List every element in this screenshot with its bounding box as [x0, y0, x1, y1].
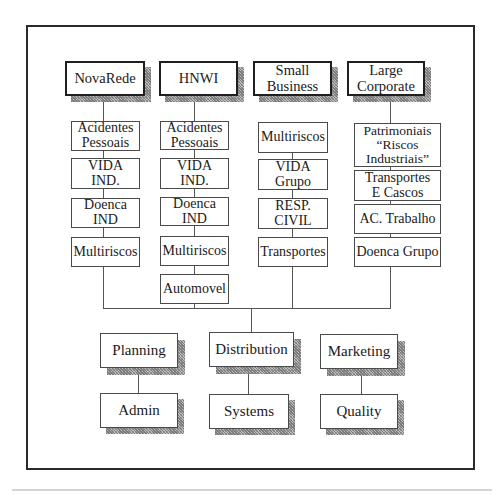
product-box[interactable]: Patrimoniais “Riscos Industriais” [354, 123, 441, 167]
function-box-systems[interactable]: Systems [209, 394, 289, 429]
segment-label: NovaRede [74, 71, 135, 86]
function-label: Distribution [215, 342, 288, 358]
product-label: Automovel [163, 282, 226, 297]
page-divider [12, 489, 492, 491]
product-label: Acidentes Pessoais [167, 121, 223, 150]
segment-label: Large Corporate [357, 63, 415, 93]
function-label: Marketing [328, 344, 390, 360]
function-label: Planning [112, 343, 165, 359]
product-label: Transportes E Cascos [365, 171, 431, 200]
function-label: Quality [337, 404, 382, 420]
product-box[interactable]: RESP. CIVIL [258, 198, 328, 229]
product-box[interactable]: VIDA IND. [71, 158, 140, 189]
function-box-admin[interactable]: Admin [100, 393, 178, 428]
product-label: Transportes [260, 245, 326, 260]
product-label: AC. Trabalho [359, 212, 435, 227]
product-label: VIDA Grupo [275, 160, 311, 189]
function-box-marketing[interactable]: Marketing [320, 334, 398, 369]
product-box[interactable]: Multiriscos [258, 122, 328, 153]
product-box[interactable]: Doenca Grupo [354, 237, 441, 267]
product-label: Multiriscos [163, 244, 227, 259]
product-label: VIDA IND. [177, 159, 212, 188]
product-box[interactable]: VIDA IND. [160, 158, 229, 189]
product-box[interactable]: VIDA Grupo [258, 159, 328, 190]
product-box[interactable]: AC. Trabalho [354, 204, 441, 234]
product-box[interactable]: Multiriscos [160, 236, 229, 266]
function-box-planning[interactable]: Planning [100, 333, 178, 368]
product-box[interactable]: Doenca IND [71, 198, 140, 228]
function-label: Systems [224, 404, 274, 420]
segment-label: HNWI [179, 71, 218, 86]
product-label: Patrimoniais “Riscos Industriais” [363, 124, 431, 167]
product-box[interactable]: Acidentes Pessoais [71, 121, 140, 151]
function-label: Admin [118, 403, 160, 419]
product-label: Multiriscos [74, 245, 138, 260]
product-box[interactable]: Multiriscos [71, 237, 140, 267]
segment-header-novarede[interactable]: NovaRede [65, 61, 145, 96]
segment-header-large-corporate[interactable]: Large Corporate [347, 61, 425, 96]
product-label: Doenca IND [84, 198, 127, 227]
connector-line [251, 308, 252, 333]
product-label: VIDA IND. [88, 159, 123, 188]
product-box[interactable]: Doenca IND [160, 197, 229, 226]
segment-header-small-business[interactable]: Small Business [253, 61, 332, 96]
product-label: Doenca Grupo [356, 245, 438, 260]
function-box-distribution[interactable]: Distribution [209, 332, 294, 367]
connector-bus [103, 308, 391, 309]
function-box-quality[interactable]: Quality [320, 394, 398, 429]
product-box[interactable]: Acidentes Pessoais [160, 121, 229, 150]
segment-label: Small Business [267, 63, 319, 93]
product-label: Doenca IND [173, 197, 216, 226]
product-label: Multiriscos [261, 130, 325, 145]
product-box[interactable]: Transportes [258, 237, 328, 267]
product-label: Acidentes Pessoais [78, 121, 134, 150]
product-box[interactable]: Automovel [160, 274, 229, 304]
product-box[interactable]: Transportes E Cascos [354, 170, 441, 201]
segment-header-hnwi[interactable]: HNWI [159, 61, 238, 96]
product-label: RESP. CIVIL [274, 199, 311, 228]
